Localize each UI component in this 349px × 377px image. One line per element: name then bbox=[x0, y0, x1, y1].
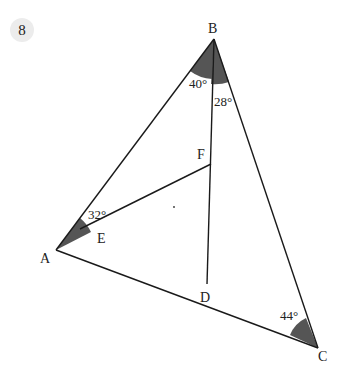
stray-dot bbox=[173, 206, 175, 208]
segment-ab bbox=[56, 39, 214, 250]
angle-label-a: 32° bbox=[88, 207, 106, 222]
segment-ac bbox=[56, 250, 318, 348]
angle-label-c: 44° bbox=[280, 308, 298, 323]
angle-sector-b-left bbox=[190, 39, 214, 79]
triangle-diagram: B A E F D C 32° 40° 28° 44° bbox=[0, 0, 349, 377]
label-b: B bbox=[208, 21, 217, 36]
label-a: A bbox=[40, 251, 51, 266]
angle-label-b-right: 28° bbox=[214, 94, 232, 109]
label-f: F bbox=[197, 147, 205, 162]
label-c: C bbox=[318, 349, 327, 364]
label-e: E bbox=[97, 231, 106, 246]
segment-bc bbox=[214, 39, 318, 348]
angle-label-b-left: 40° bbox=[189, 76, 207, 91]
angle-sector-a bbox=[56, 218, 91, 250]
label-d: D bbox=[200, 290, 210, 305]
